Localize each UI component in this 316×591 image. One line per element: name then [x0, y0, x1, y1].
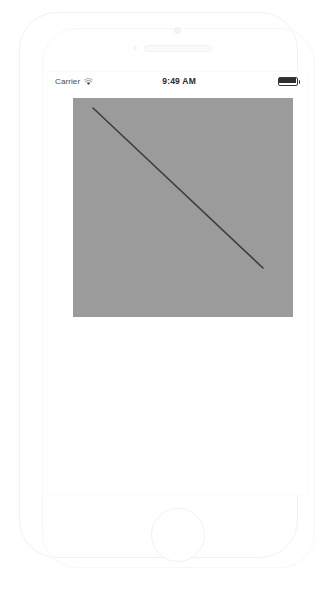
camera-icon — [174, 27, 181, 34]
status-bar: Carrier 9:49 AM — [48, 72, 308, 91]
home-button[interactable] — [151, 508, 205, 562]
content-area — [48, 91, 308, 494]
proximity-sensor-icon — [133, 46, 137, 50]
drawing-canvas[interactable] — [73, 98, 293, 317]
battery-fill — [279, 78, 296, 83]
diagonal-line — [93, 108, 263, 268]
status-bar-center: 9:49 AM — [93, 77, 265, 86]
wifi-icon — [84, 78, 93, 86]
device-frame: Carrier 9:49 AM — [19, 12, 298, 558]
device-screen: Carrier 9:49 AM — [47, 71, 309, 495]
carrier-label: Carrier — [55, 78, 80, 86]
status-bar-right — [265, 77, 301, 86]
speaker-icon — [144, 45, 212, 52]
clock-label: 9:49 AM — [162, 77, 196, 86]
battery-full-icon — [278, 77, 301, 86]
battery-cap — [299, 80, 301, 84]
status-bar-left: Carrier — [55, 78, 93, 86]
